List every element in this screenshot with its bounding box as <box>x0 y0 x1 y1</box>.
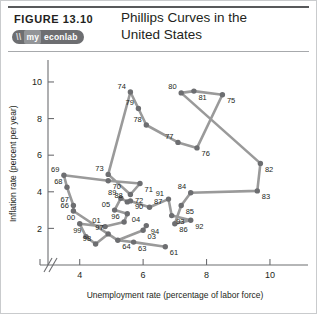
point-label-78: 78 <box>133 115 141 124</box>
data-point-91[interactable] <box>166 196 171 201</box>
point-label-87: 87 <box>154 197 162 206</box>
data-point-74[interactable] <box>128 89 133 94</box>
point-label-80: 80 <box>168 82 176 91</box>
point-label-77: 77 <box>165 132 173 141</box>
x-axis-ticks: 46810 <box>77 259 275 280</box>
point-label-82: 82 <box>265 165 273 174</box>
data-point-77[interactable] <box>175 140 180 145</box>
point-label-61: 61 <box>170 248 178 257</box>
point-label-68: 68 <box>54 177 62 186</box>
x-tick-6: 6 <box>141 270 146 280</box>
figure-header: FIGURE 13.10 \\ my econlab Phillips Curv… <box>8 6 309 52</box>
data-point-71[interactable] <box>137 181 142 186</box>
y-axis-title: Inflation rate (percent per year) <box>8 105 18 222</box>
data-point-04[interactable] <box>125 211 130 216</box>
point-label-63: 63 <box>138 244 146 253</box>
data-point-68[interactable] <box>64 185 69 190</box>
data-point-78[interactable] <box>144 122 149 127</box>
point-label-96: 96 <box>111 212 119 221</box>
y-tick-6: 6 <box>37 150 42 160</box>
data-point-93[interactable] <box>169 213 174 218</box>
chart-svg: 246810 46810 616364666768697071727374757… <box>0 52 317 314</box>
point-label-03: 03 <box>148 232 156 241</box>
logo-slash-icon: \\ <box>16 30 21 44</box>
logo-my-text: my <box>24 30 41 44</box>
x-tick-10: 10 <box>265 270 275 280</box>
figure-number-label: FIGURE 13.10 <box>14 13 93 25</box>
point-label-90: 90 <box>135 202 143 211</box>
x-tick-4: 4 <box>77 270 82 280</box>
point-label-04: 04 <box>132 215 140 224</box>
point-label-99: 99 <box>73 226 81 235</box>
data-point-84[interactable] <box>188 190 193 195</box>
point-label-69: 69 <box>51 165 59 174</box>
header-rule-top <box>8 6 309 8</box>
point-label-93: 93 <box>176 217 184 226</box>
data-point-67[interactable] <box>71 203 76 208</box>
data-point-81[interactable] <box>191 88 196 93</box>
point-label-84: 84 <box>178 182 186 191</box>
data-point-70[interactable] <box>106 178 111 183</box>
data-point-85[interactable] <box>179 203 184 208</box>
data-point-72[interactable] <box>128 192 133 197</box>
data-point-73[interactable] <box>106 172 111 177</box>
data-point-03[interactable] <box>140 228 145 233</box>
point-label-76: 76 <box>202 149 210 158</box>
point-label-71: 71 <box>145 185 153 194</box>
myeconlab-logo[interactable]: \\ my econlab <box>12 30 84 44</box>
point-label-73: 73 <box>95 164 103 173</box>
point-label-67: 67 <box>61 195 69 204</box>
point-label-81: 81 <box>198 93 206 102</box>
data-point-87[interactable] <box>147 205 152 210</box>
data-point-79[interactable] <box>136 106 141 111</box>
y-tick-2: 2 <box>37 224 42 234</box>
x-axis-title: Unemployment rate (percentage of labor f… <box>87 290 264 300</box>
x-tick-8: 8 <box>204 270 209 280</box>
point-label-98: 98 <box>83 234 91 243</box>
point-label-75: 75 <box>227 96 235 105</box>
data-point-94[interactable] <box>144 223 149 228</box>
point-label-79: 79 <box>126 98 134 107</box>
data-point-96[interactable] <box>121 219 126 224</box>
point-label-89: 89 <box>108 188 116 197</box>
data-point-90[interactable] <box>128 198 133 203</box>
data-point-97[interactable] <box>106 231 111 236</box>
point-label-05: 05 <box>102 200 110 209</box>
point-label-83: 83 <box>262 192 270 201</box>
data-point-98[interactable] <box>93 241 98 246</box>
point-label-00: 00 <box>67 213 75 222</box>
figure-title-line1: Phillips Curves in the <box>121 9 306 26</box>
point-label-64: 64 <box>122 242 130 251</box>
data-point-63[interactable] <box>131 239 136 244</box>
data-point-75[interactable] <box>220 92 225 97</box>
data-point-83[interactable] <box>255 188 260 193</box>
point-label-01: 01 <box>92 216 100 225</box>
point-label-86: 86 <box>179 225 187 234</box>
data-point-61[interactable] <box>163 244 168 249</box>
y-tick-8: 8 <box>37 114 42 124</box>
phillips-curve-chart: 246810 46810 616364666768697071727374757… <box>0 52 317 314</box>
data-point-82[interactable] <box>258 161 263 166</box>
data-point-64[interactable] <box>115 238 120 243</box>
point-label-92: 92 <box>195 222 203 231</box>
figure-title: Phillips Curves in the United States <box>121 9 306 43</box>
y-tick-10: 10 <box>32 77 42 87</box>
point-label-91: 91 <box>156 189 164 198</box>
data-point-80[interactable] <box>179 90 184 95</box>
y-axis-ticks: 246810 <box>32 77 54 233</box>
data-point-92[interactable] <box>188 218 193 223</box>
figure-13-10: FIGURE 13.10 \\ my econlab Phillips Curv… <box>0 0 317 314</box>
point-label-74: 74 <box>118 82 126 91</box>
logo-econlab-text: econlab <box>44 30 78 44</box>
y-tick-4: 4 <box>37 187 42 197</box>
data-point-76[interactable] <box>194 145 199 150</box>
point-label-85: 85 <box>186 207 194 216</box>
figure-title-line2: United States <box>121 26 306 43</box>
